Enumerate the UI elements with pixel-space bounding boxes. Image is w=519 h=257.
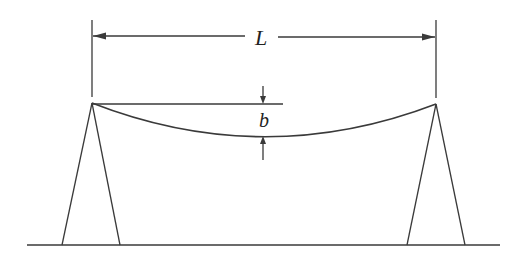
- sag-arrowhead-top: [260, 96, 266, 104]
- sag-label: b: [259, 109, 269, 131]
- right-tower: [407, 104, 465, 245]
- span-label: L: [254, 25, 267, 50]
- span-arrowhead-right: [422, 34, 435, 41]
- span-arrowhead-left: [93, 33, 106, 40]
- left-tower: [62, 103, 120, 245]
- diagram-canvas: L b: [0, 0, 519, 257]
- cable-diagram: L b: [0, 0, 519, 257]
